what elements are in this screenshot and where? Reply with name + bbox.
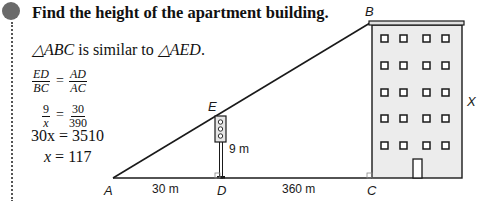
measure-dc: 360 m <box>282 182 315 196</box>
traffic-light-pole <box>220 141 223 178</box>
measure-ed: 9 m <box>229 142 249 156</box>
building-roof <box>369 21 464 25</box>
building-door <box>413 159 422 178</box>
height-label-x: X <box>466 94 477 109</box>
measure-ad: 30 m <box>152 182 179 196</box>
similar-triangles-diagram: A D C E B X 30 m 360 m 9 m <box>0 0 491 201</box>
apartment-building <box>372 25 462 178</box>
point-label-e: E <box>208 99 217 114</box>
point-label-d: D <box>217 183 226 198</box>
point-label-a: A <box>103 183 113 198</box>
point-label-c: C <box>367 183 377 198</box>
point-label-b: B <box>365 4 374 19</box>
